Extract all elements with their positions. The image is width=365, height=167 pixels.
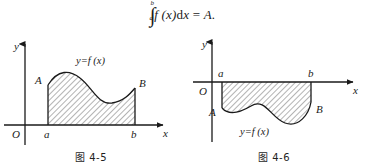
y-axis-label: y xyxy=(13,40,19,52)
origin-label: O xyxy=(12,128,20,140)
equals-sign: = xyxy=(193,7,201,22)
integrand: f (x) xyxy=(154,7,176,22)
point-label-B: B xyxy=(316,103,323,115)
integral-limits: ba xyxy=(150,6,154,22)
point-label-A: A xyxy=(208,106,216,118)
figure-4-6: y x O a b A B y=f (x) 图 4-6 xyxy=(183,30,365,167)
integral-formula: ∫baf (x)dx = A. xyxy=(0,2,365,28)
integral-upper-limit: b xyxy=(151,0,155,7)
point-label-B: B xyxy=(139,77,146,89)
point-label-A: A xyxy=(34,74,42,86)
tick-label-b: b xyxy=(131,128,137,140)
figure-4-6-graphic: y x O a b A B y=f (x) xyxy=(183,30,365,150)
integration-variable: x xyxy=(183,7,189,22)
curve-label: y=f (x) xyxy=(75,55,105,67)
page-root: ∫baf (x)dx = A. xyxy=(0,0,365,167)
x-axis-label: x xyxy=(352,84,358,96)
shaded-area xyxy=(222,82,311,124)
figure-4-5-caption: 图 4-5 xyxy=(0,149,182,164)
x-axis-label: x xyxy=(162,127,168,139)
origin-label: O xyxy=(199,85,207,97)
figure-4-6-caption: 图 4-6 xyxy=(183,149,365,164)
figure-4-5: y x O a b A B y=f (x) 图 4-5 xyxy=(0,30,182,167)
y-axis-label: y xyxy=(201,38,207,50)
shaded-area xyxy=(48,72,135,125)
integral-result: A. xyxy=(204,7,216,22)
tick-label-a: a xyxy=(44,128,50,140)
figure-4-5-graphic: y x O a b A B y=f (x) xyxy=(0,30,182,150)
tick-label-a: a xyxy=(218,67,224,79)
integral-lower-limit: a xyxy=(150,14,154,22)
tick-label-b: b xyxy=(308,67,314,79)
curve-label: y=f (x) xyxy=(239,126,269,138)
